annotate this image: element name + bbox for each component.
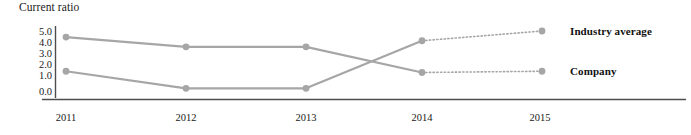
axes-group (42, 26, 686, 100)
data-point-marker (539, 68, 546, 75)
data-point-marker (419, 37, 426, 44)
series-lines-group (66, 31, 542, 88)
data-point-marker (63, 34, 70, 41)
data-point-marker (183, 43, 190, 50)
chart-figure: Current ratio 5.0 4.0 3.0 2.0 1.0 0.0 20… (0, 0, 691, 135)
series-1-segment (306, 47, 422, 73)
plot-area (0, 0, 691, 135)
series-0-segment (422, 31, 542, 41)
series-0-segment (306, 41, 422, 89)
series-0-segment (66, 71, 186, 88)
data-point-marker (303, 43, 310, 50)
data-point-marker (183, 85, 190, 92)
series-1-segment (422, 71, 542, 72)
series-1-segment (66, 37, 186, 47)
data-point-marker (539, 28, 546, 35)
data-point-marker (63, 68, 70, 75)
data-point-marker (303, 85, 310, 92)
data-point-marker (419, 69, 426, 76)
